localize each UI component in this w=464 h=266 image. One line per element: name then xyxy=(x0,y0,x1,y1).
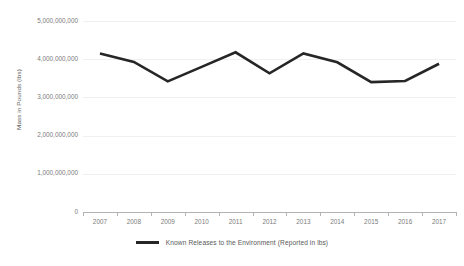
x-axis-tick-label-2017: 2017 xyxy=(419,219,459,225)
x-axis-tick xyxy=(354,212,355,216)
legend-item-label: Known Releases to the Environment (Repor… xyxy=(166,239,328,246)
x-axis-tick xyxy=(219,212,220,216)
legend-swatch-icon xyxy=(136,241,159,244)
x-axis-tick xyxy=(286,212,287,216)
y-axis-tick-label-3: 2,000,000,000 xyxy=(12,132,78,138)
y-axis-tick-label-0: 5,000,000,000 xyxy=(12,18,78,24)
y-axis-tick-label-5: 0 xyxy=(12,209,78,215)
chart-legend: Known Releases to the Environment (Repor… xyxy=(0,239,464,246)
series-line-0 xyxy=(100,52,439,82)
plot-area xyxy=(83,21,456,212)
data-series-line xyxy=(83,21,456,212)
line-chart: Mass in Pounds (lbs) 5,000,000,0004,000,… xyxy=(0,0,464,266)
x-axis-tick xyxy=(151,212,152,216)
x-axis-tick xyxy=(320,212,321,216)
y-axis-tick-label-2: 3,000,000,000 xyxy=(12,94,78,100)
x-axis-tick xyxy=(422,212,423,216)
x-axis-tick xyxy=(83,212,84,216)
x-axis-tick xyxy=(388,212,389,216)
y-axis-tick-label-1: 4,000,000,000 xyxy=(12,56,78,62)
x-axis-tick xyxy=(456,212,457,216)
x-axis-tick xyxy=(253,212,254,216)
x-axis-tick xyxy=(185,212,186,216)
x-axis-line xyxy=(83,212,456,213)
x-axis-tick xyxy=(117,212,118,216)
y-axis-tick-label-4: 1,000,000,000 xyxy=(12,170,78,176)
y-axis-tick-labels: 5,000,000,0004,000,000,0003,000,000,0002… xyxy=(12,0,78,266)
